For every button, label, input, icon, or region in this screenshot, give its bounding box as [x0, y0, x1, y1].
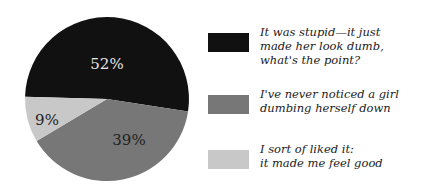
legend-swatch: [208, 150, 249, 169]
legend-label: I've never noticed a girl dumbing hersel…: [260, 87, 429, 115]
legend-swatch: [208, 95, 249, 114]
slice-label-stupid: 52%: [90, 55, 123, 73]
slice-label-liked-it: 9%: [35, 111, 59, 129]
legend-swatch: [208, 33, 249, 52]
legend-label: It was stupid—it just made her look dumb…: [260, 25, 429, 67]
slice-label-never-noticed: 39%: [112, 131, 145, 149]
legend-label: I sort of liked it: it made me feel good: [260, 142, 429, 170]
